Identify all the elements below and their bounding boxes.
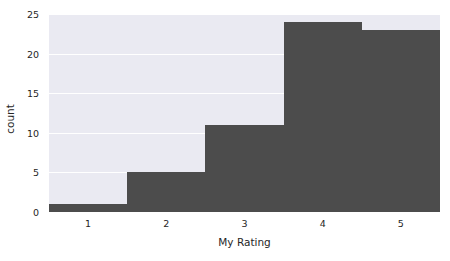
bar-3 xyxy=(205,125,283,212)
y-axis-title: count xyxy=(4,89,16,149)
y-tick-label-20: 20 xyxy=(27,48,39,59)
x-tick-label-4: 4 xyxy=(320,218,326,229)
bar-series xyxy=(49,14,440,212)
bar-4 xyxy=(284,22,362,212)
y-tick-label-10: 10 xyxy=(27,127,39,138)
x-axis-tick-labels: 12345 xyxy=(0,212,450,236)
y-tick-label-15: 15 xyxy=(27,88,39,99)
bar-5 xyxy=(362,30,440,212)
y-tick-label-5: 5 xyxy=(33,167,39,178)
y-tick-label-25: 25 xyxy=(27,9,39,20)
x-tick-label-2: 2 xyxy=(163,218,169,229)
bar-2 xyxy=(127,172,205,212)
bar-1 xyxy=(49,204,127,212)
x-tick-label-3: 3 xyxy=(241,218,247,229)
plot-area xyxy=(49,14,440,212)
x-axis-title: My Rating xyxy=(49,236,440,248)
x-tick-label-5: 5 xyxy=(398,218,404,229)
chart-figure: 0510152025 12345 My Rating count xyxy=(0,0,450,261)
x-tick-label-1: 1 xyxy=(85,218,91,229)
